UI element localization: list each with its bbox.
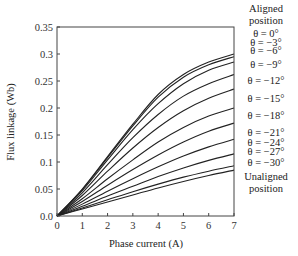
y-tick-label: 0.1 — [40, 157, 53, 168]
x-tick-label: 7 — [231, 220, 236, 231]
y-tick-label: 0.3 — [40, 49, 53, 60]
angle-label: θ = −30° — [248, 157, 285, 168]
aligned-position-label: position — [249, 15, 284, 26]
y-tick-label: 0.05 — [35, 184, 53, 195]
y-tick-label: 0.25 — [35, 76, 53, 87]
y-tick-label: 0.0 — [40, 211, 53, 222]
angle-label: θ = −12° — [248, 75, 285, 86]
angle-label: θ = −15° — [248, 93, 285, 104]
y-axis-label: Flux linkage (Wb) — [5, 83, 17, 161]
x-tick-label: 6 — [206, 220, 211, 231]
y-axis-ticks: 0.00.050.10.150.20.250.30.35 — [35, 22, 60, 222]
angle-label: θ = −9° — [250, 59, 282, 70]
angle-label: θ = −18° — [248, 110, 285, 121]
x-tick-label: 4 — [156, 220, 162, 231]
y-tick-label: 0.2 — [40, 103, 53, 114]
curve-line — [57, 62, 234, 216]
curves — [57, 54, 234, 216]
flux-linkage-chart: 01234567 0.00.050.10.150.20.250.30.35 Ph… — [0, 0, 298, 256]
x-tick-label: 3 — [130, 220, 135, 231]
aligned-position-label: Aligned — [249, 3, 284, 14]
unaligned-position-label: Unaligned — [244, 171, 288, 182]
x-tick-label: 1 — [80, 220, 85, 231]
angle-label: θ = −6° — [250, 45, 282, 56]
curve-labels: Alignedpositionθ = 0°θ = −3°θ = −6°θ = −… — [244, 3, 288, 194]
curve-line — [57, 154, 234, 216]
x-tick-label: 5 — [181, 220, 186, 231]
unaligned-position-label: position — [249, 183, 284, 194]
y-tick-label: 0.35 — [35, 22, 53, 33]
angle-label: θ = −27° — [248, 146, 285, 157]
x-tick-label: 0 — [54, 220, 59, 231]
x-tick-label: 2 — [105, 220, 110, 231]
y-tick-label: 0.15 — [35, 130, 53, 141]
curve-line — [57, 170, 234, 216]
x-axis-label: Phase current (A) — [109, 238, 184, 250]
